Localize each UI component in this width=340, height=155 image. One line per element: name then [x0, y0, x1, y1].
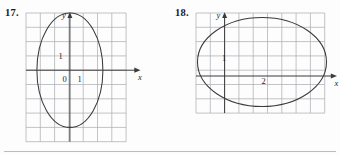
figure-17-y-axis-name: y [61, 10, 66, 20]
figure-18-plot: 1 2 y x [190, 6, 340, 118]
page-bottom-separator [4, 151, 336, 152]
figure-18-label-y-unit: 1 [222, 53, 226, 63]
figure-17: 17. [0, 0, 170, 150]
figure-18-label-x-unit: 2 [261, 76, 265, 86]
figure-18-svg: 1 2 y x [190, 6, 340, 118]
figure-18-gridlines [196, 13, 325, 113]
figure-17-svg: 1 0 1 y x [20, 6, 160, 148]
figure-17-number: 17. [5, 7, 19, 18]
figure-18-number: 18. [175, 7, 189, 18]
figure-17-x-axis-name: x [137, 72, 142, 82]
figure-17-label-x-unit: 1 [77, 74, 81, 84]
figure-18-y-axis-name: y [216, 10, 221, 20]
figure-17-label-y-unit: 1 [58, 51, 62, 61]
figure-18-x-axis-name: x [334, 78, 339, 88]
figure-18-ellipse-curve [198, 18, 327, 107]
figure-17-gridlines [26, 13, 126, 142]
exercise-page: 17. [0, 0, 340, 155]
figure-18: 18. [170, 0, 340, 150]
figure-17-plot: 1 0 1 y x [20, 6, 160, 148]
figure-17-label-origin: 0 [62, 74, 66, 84]
figure-18-axes [196, 15, 334, 114]
